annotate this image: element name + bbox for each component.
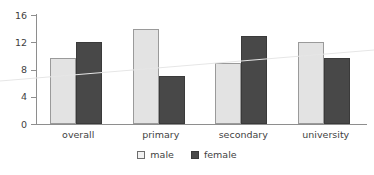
x-axis-label-secondary: secondary <box>202 128 285 142</box>
bar-chart: 0481216 overallprimarysecondaryuniversit… <box>0 0 374 175</box>
bar-overall-male <box>50 58 76 124</box>
legend-item-female[interactable]: female <box>191 150 237 160</box>
y-axis-tick-label: 8 <box>21 65 27 75</box>
chart-legend: malefemale <box>0 150 374 160</box>
bar-overall-female <box>76 42 102 124</box>
y-axis-tick-label: 0 <box>21 120 27 130</box>
y-axis-tick-label: 4 <box>21 93 27 103</box>
x-axis-category-labels: overallprimarysecondaryuniversity <box>37 128 367 144</box>
bar-primary-female <box>159 76 185 124</box>
bar-university-female <box>324 58 350 124</box>
legend-item-male[interactable]: male <box>137 150 174 160</box>
y-axis-tick-label: 12 <box>15 38 27 48</box>
x-axis-label-primary: primary <box>120 128 203 142</box>
bar-university-male <box>298 42 324 124</box>
legend-swatch-male-icon <box>137 151 145 159</box>
bar-primary-male <box>133 29 159 124</box>
x-axis-label-university: university <box>285 128 368 142</box>
y-axis-tick-label: 16 <box>15 11 27 21</box>
y-axis-tick: 0 <box>31 124 37 125</box>
bar-secondary-female <box>241 36 267 124</box>
legend-label-female: female <box>204 150 237 160</box>
legend-label-male: male <box>150 150 174 160</box>
x-axis-line <box>36 124 367 125</box>
bars-layer <box>37 15 367 124</box>
x-axis-label-overall: overall <box>37 128 120 142</box>
bar-secondary-male <box>215 63 241 124</box>
legend-swatch-female-icon <box>191 151 199 159</box>
